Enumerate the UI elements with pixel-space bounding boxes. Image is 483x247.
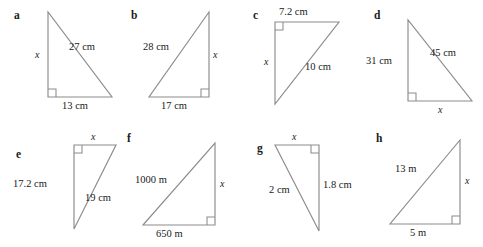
side-label-e-horizontal: x xyxy=(91,132,95,142)
right-angle-marker-f xyxy=(207,217,215,225)
side-label-b-hypotenuse: 28 cm xyxy=(143,42,169,53)
side-label-h-horizontal: 5 m xyxy=(410,228,426,239)
side-label-a-hypotenuse: 27 cm xyxy=(69,42,95,53)
side-label-d-hypotenuse: 45 cm xyxy=(430,48,456,59)
right-angle-marker-c xyxy=(275,22,283,30)
figure-panel-h: h x 5 m 13 m xyxy=(362,123,483,246)
side-label-g-hypotenuse: 2 cm xyxy=(269,185,290,196)
side-label-b-horizontal: 17 cm xyxy=(161,101,187,112)
figure-panel-e: e 17.2 cm x 19 cm xyxy=(0,123,121,246)
figure-label-e: e xyxy=(16,149,21,161)
side-label-h-vertical: x xyxy=(465,176,469,186)
triangle-outline-b xyxy=(149,12,209,97)
triangle-diagram-c xyxy=(243,0,364,123)
right-angle-marker-d xyxy=(408,93,416,101)
triangle-outline-d xyxy=(408,20,472,101)
side-label-h-hypotenuse: 13 m xyxy=(395,164,416,175)
side-label-a-horizontal: 13 cm xyxy=(62,101,88,112)
side-label-c-horizontal: 7.2 cm xyxy=(279,7,308,18)
right-angle-marker-h xyxy=(452,216,460,224)
right-angle-marker-b xyxy=(201,89,209,97)
figure-label-b: b xyxy=(131,10,137,22)
side-label-d-vertical: 31 cm xyxy=(366,56,392,67)
triangle-outline-a xyxy=(48,12,112,97)
right-angle-marker-a xyxy=(48,89,56,97)
side-label-e-vertical: 17.2 cm xyxy=(13,179,47,190)
side-label-f-horizontal: 650 m xyxy=(156,229,183,240)
figure-label-c: c xyxy=(253,10,258,22)
side-label-c-vertical: x xyxy=(264,57,268,67)
figure-label-a: a xyxy=(14,10,20,22)
figure-panel-b: b x 17 cm 28 cm xyxy=(121,0,242,123)
side-label-a-vertical: x xyxy=(35,50,39,60)
figure-panel-d: d 31 cm x 45 cm xyxy=(362,0,483,123)
side-label-f-hypotenuse: 1000 m xyxy=(135,175,167,186)
triangle-outline-e xyxy=(74,145,116,229)
figure-label-f: f xyxy=(127,133,131,145)
side-label-g-horizontal: x xyxy=(292,132,296,142)
side-label-f-vertical: x xyxy=(220,179,224,189)
right-angle-marker-e xyxy=(74,145,82,153)
side-label-e-hypotenuse: 19 cm xyxy=(85,193,111,204)
figure-panel-f: f x 650 m 1000 m xyxy=(121,123,242,246)
side-label-b-vertical: x xyxy=(213,50,217,60)
side-label-c-hypotenuse: 10 cm xyxy=(305,62,331,73)
figure-label-d: d xyxy=(374,10,380,22)
side-label-g-vertical: 1.8 cm xyxy=(323,180,352,191)
figure-panel-c: c x 7.2 cm 10 cm xyxy=(243,0,364,123)
figure-panel-a: a x 13 cm 27 cm xyxy=(0,0,121,123)
side-label-d-horizontal: x xyxy=(438,105,442,115)
right-angle-marker-g xyxy=(311,145,319,153)
figure-label-g: g xyxy=(257,143,263,155)
figure-label-h: h xyxy=(376,133,382,145)
triangle-outline-h xyxy=(390,140,460,224)
figure-panel-g: g 1.8 cm x 2 cm xyxy=(243,123,364,246)
worksheet-figure-sheet: a x 13 cm 27 cm b x 17 cm 28 cm c x 7.2 … xyxy=(0,0,483,247)
